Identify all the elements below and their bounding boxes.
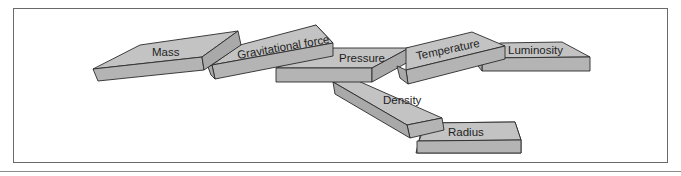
- label-mass: Mass: [152, 46, 180, 58]
- block-density: Density: [333, 80, 444, 138]
- label-density: Density: [383, 94, 422, 106]
- blocks-diagram: Radius Density Luminosity Pressure Tempe…: [0, 0, 681, 176]
- block-temperature: Temperature: [397, 32, 505, 84]
- label-pressure: Pressure: [339, 52, 385, 64]
- label-radius: Radius: [448, 126, 484, 138]
- label-luminosity: Luminosity: [508, 44, 563, 56]
